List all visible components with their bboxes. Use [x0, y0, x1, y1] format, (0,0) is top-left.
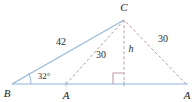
triangle-diagram-svg: B C A A 42 30 30 h 32° — [0, 0, 196, 102]
measure-label-bc: 42 — [56, 36, 66, 47]
vertex-label-c: C — [120, 1, 128, 13]
segment-a1-to-c — [66, 20, 124, 84]
measure-label-a1c: 30 — [96, 49, 106, 60]
vertex-label-a2: A — [183, 89, 191, 101]
measure-label-height: h — [129, 43, 134, 54]
vertex-label-a1: A — [62, 89, 70, 101]
vertex-label-b: B — [4, 87, 11, 99]
angle-label-b: 32° — [38, 71, 51, 81]
right-angle-icon — [113, 73, 124, 84]
measure-label-a2c: 30 — [158, 33, 168, 44]
angle-arc-b-icon — [29, 73, 31, 84]
geometry-figure: B C A A 42 30 30 h 32° — [0, 0, 196, 102]
